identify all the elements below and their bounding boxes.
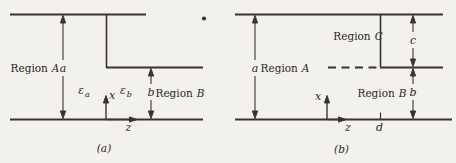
fig-b-x-axis-arrowhead (324, 96, 329, 104)
fig-b-z-axis-label: z (345, 122, 351, 133)
fig-a-region-b-label: RegionB (155, 88, 204, 99)
fig-a-dim-a-arrowhead-up (60, 16, 65, 24)
fig-b-dim-c-arrowhead-down (410, 59, 415, 67)
fig-b-dim-c-arrowhead-up (410, 16, 415, 24)
fig-a-epsilon-b-label: εb (120, 85, 132, 99)
bullet-dot (202, 16, 206, 20)
fig-b-x-axis-label: x (315, 90, 321, 101)
fig-a-x-axis-arrowhead (103, 96, 108, 104)
fig-b-dim-b-arrowhead-down (410, 111, 415, 119)
fig-b-caption: (b) (334, 144, 349, 155)
fig-a-region-a-label: RegionA (11, 63, 60, 74)
fig-b-dim-a-arrowhead-down (252, 111, 257, 119)
fig-a-dim-a-arrowhead-down (60, 111, 65, 119)
fig-a-caption: (a) (97, 143, 111, 154)
fig-b-dim-b-label: b (408, 87, 417, 98)
fig-a-epsilon-a-label: εa (78, 85, 89, 99)
fig-a-dim-b-arrowhead-up (148, 69, 153, 77)
figure-linework (0, 0, 456, 163)
fig-b-region-a-label: RegionA (261, 63, 310, 74)
fig-b-dim-b-arrowhead-up (410, 69, 415, 77)
fig-a-dim-a-label: a (59, 63, 68, 74)
fig-a-dim-b-arrowhead-down (148, 111, 153, 119)
fig-a-dim-b-label: b (146, 87, 155, 98)
fig-b-region-c-label: RegionC (333, 31, 382, 42)
fig-b-dim-c-label: c (409, 35, 417, 46)
fig-a-x-axis-label: x (109, 90, 115, 101)
fig-a-z-axis-label: z (126, 121, 132, 132)
fig-b-d-label: d (376, 122, 383, 133)
waveguide-step-figure: RegionA a εa εb x z b RegionB (a) a Regi… (0, 0, 456, 163)
fig-b-dim-a-arrowhead-up (252, 16, 257, 24)
fig-b-dim-a-label: a (251, 63, 260, 74)
fig-b-region-b-label: RegionB (357, 88, 406, 99)
